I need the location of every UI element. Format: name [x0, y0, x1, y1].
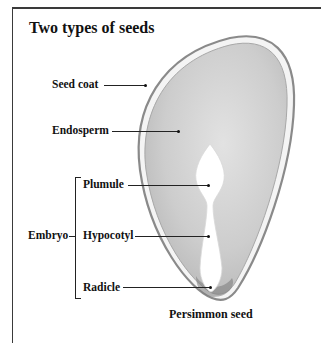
label-hypocotyl: Hypocotyl	[83, 229, 133, 241]
label-plumule: Plumule	[83, 178, 124, 190]
label-seed-coat: Seed coat	[52, 78, 98, 90]
leader-seed-coat	[104, 85, 146, 86]
pointer-radicle	[209, 286, 212, 289]
leader-hypocotyl	[135, 236, 208, 237]
pointer-seed-coat	[144, 84, 147, 87]
pointer-plumule	[207, 184, 210, 187]
leader-plumule	[128, 185, 208, 186]
pointer-hypocotyl	[207, 235, 210, 238]
leader-endosperm	[112, 131, 178, 132]
label-embryo: Embryo	[28, 229, 68, 241]
embryo-bracket	[75, 177, 81, 299]
label-endosperm: Endosperm	[52, 124, 109, 136]
persimmon-seed-illustration	[0, 0, 321, 343]
figure-caption: Persimmon seed	[169, 307, 253, 322]
pointer-endosperm	[177, 130, 180, 133]
leader-radicle	[123, 287, 211, 288]
label-radicle: Radicle	[83, 281, 120, 293]
